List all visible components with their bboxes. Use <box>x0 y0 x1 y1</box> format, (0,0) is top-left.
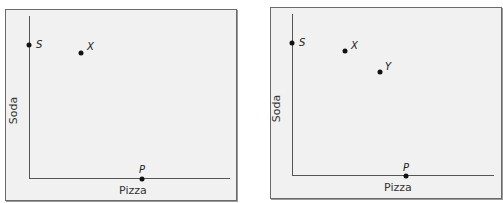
point-y-label: Y <box>385 62 391 72</box>
y-axis <box>29 16 30 179</box>
point-x-label: X <box>87 42 94 52</box>
point-p <box>404 174 409 179</box>
point-x <box>79 51 84 56</box>
y-axis <box>292 14 293 176</box>
point-s <box>290 41 295 46</box>
x-axis-label: Pizza <box>384 181 412 194</box>
y-axis-label: Soda <box>270 95 283 122</box>
point-s-label: S <box>299 38 305 48</box>
point-y <box>378 70 383 75</box>
point-x <box>343 49 348 54</box>
point-p-label: P <box>139 165 145 175</box>
right-chart-panel: S X Y P Soda Pizza <box>270 7 502 199</box>
point-s <box>27 43 32 48</box>
x-axis <box>292 175 494 176</box>
x-axis <box>29 178 230 179</box>
point-p <box>140 177 145 182</box>
x-axis-label: Pizza <box>119 184 147 197</box>
point-s-label: S <box>36 40 42 50</box>
point-p-label: P <box>403 163 409 173</box>
left-chart-panel: S X P Soda Pizza <box>5 9 237 201</box>
point-x-label: X <box>351 41 358 51</box>
y-axis-label: Soda <box>7 97 20 124</box>
